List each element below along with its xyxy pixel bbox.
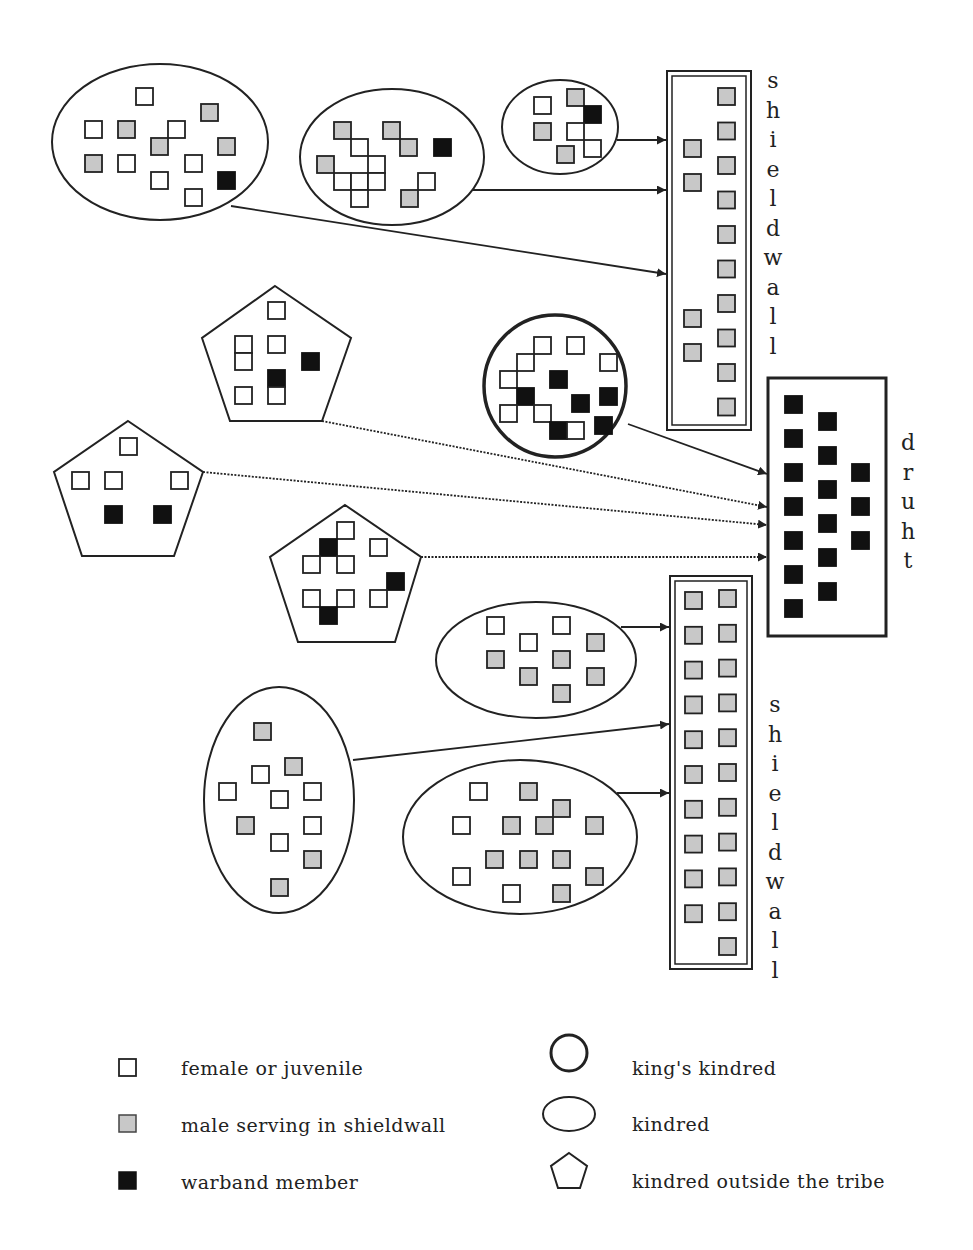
shieldwall-male-member: [719, 799, 736, 816]
female-juvenile-member: [304, 817, 321, 834]
female-juvenile-member: [85, 121, 102, 138]
kindred-6-members: [453, 783, 603, 902]
shieldwall-male-member: [684, 344, 701, 361]
female-juvenile-member: [120, 438, 137, 455]
warband-member: [785, 396, 802, 413]
warband-member: [572, 395, 589, 412]
shieldwall-male-member: [520, 851, 537, 868]
female-juvenile-member: [503, 885, 520, 902]
shieldwall-male-member: [718, 88, 735, 105]
shieldwall-male-member: [719, 625, 736, 642]
legend-kindred-label: kindred: [632, 1113, 710, 1135]
shieldwall-top-label-letter: a: [766, 275, 779, 300]
female-juvenile-member: [337, 556, 354, 573]
druht-label-letter: u: [901, 489, 915, 514]
female-juvenile-member: [268, 387, 285, 404]
shieldwall-male-member: [718, 364, 735, 381]
legend-female-label: female or juvenile: [181, 1057, 363, 1079]
arrow-kings-kindred-to-druht: [628, 424, 767, 474]
shieldwall-top-label-letter: i: [769, 127, 776, 152]
female-juvenile-member: [370, 539, 387, 556]
shieldwall-male-member: [685, 836, 702, 853]
shieldwall-male-member: [685, 696, 702, 713]
shieldwall-male-member: [718, 295, 735, 312]
shieldwall-male-member: [587, 668, 604, 685]
legend-female-swatch: [119, 1059, 136, 1076]
shieldwall-male-member: [201, 104, 218, 121]
shieldwall-male-member: [553, 685, 570, 702]
shieldwall-male-member: [557, 146, 574, 163]
warband-member: [785, 566, 802, 583]
female-juvenile-member: [235, 353, 252, 370]
shieldwall-male-member: [151, 138, 168, 155]
female-juvenile-member: [151, 172, 168, 189]
warband-member: [302, 353, 319, 370]
warband-member: [218, 172, 235, 189]
legend-male-swatch: [119, 1115, 136, 1132]
warband-member: [819, 549, 836, 566]
shieldwall-male-member: [400, 139, 417, 156]
warband-member: [268, 370, 285, 387]
female-juvenile-member: [252, 766, 269, 783]
warband-member: [785, 532, 802, 549]
shieldwall-top-label-letter: s: [767, 68, 778, 93]
shieldwall-male-member: [719, 868, 736, 885]
female-juvenile-member: [171, 472, 188, 489]
female-juvenile-member: [351, 190, 368, 207]
warband-member: [517, 388, 534, 405]
shieldwall-male-member: [304, 851, 321, 868]
shieldwall-male-member: [586, 868, 603, 885]
female-juvenile-member: [185, 189, 202, 206]
shieldwall-male-member: [237, 817, 254, 834]
shieldwall-bottom-label-letter: a: [768, 899, 781, 924]
shieldwall-male-member: [567, 89, 584, 106]
shieldwall-male-member: [285, 758, 302, 775]
shieldwall-male-member: [553, 851, 570, 868]
shieldwall-bottom-label: shieldwall: [766, 692, 785, 983]
female-juvenile-member: [268, 302, 285, 319]
female-juvenile-member: [534, 337, 551, 354]
warband-member: [320, 607, 337, 624]
female-juvenile-member: [334, 173, 351, 190]
female-juvenile-member: [567, 123, 584, 140]
warband-member: [819, 515, 836, 532]
shieldwall-male-member: [534, 123, 551, 140]
shieldwall-male-member: [684, 310, 701, 327]
shieldwall-top-label-letter: d: [766, 216, 780, 241]
outside-1-members: [235, 302, 319, 404]
kindred-4-members: [487, 617, 604, 702]
female-juvenile-member: [534, 97, 551, 114]
legend-warband-swatch: [119, 1172, 136, 1189]
kindred-1-members: [85, 88, 235, 206]
shieldwall-male-member: [553, 800, 570, 817]
female-juvenile-member: [303, 590, 320, 607]
druht-label-letter: h: [901, 519, 915, 544]
warband-member: [105, 506, 122, 523]
shieldwall-male-member: [685, 592, 702, 609]
shieldwall-male-member: [587, 634, 604, 651]
shieldwall-male-member: [520, 668, 537, 685]
female-juvenile-member: [235, 387, 252, 404]
shieldwall-male-member: [118, 121, 135, 138]
legend-kings-kindred-icon: [551, 1035, 587, 1071]
female-juvenile-member: [271, 791, 288, 808]
female-juvenile-member: [368, 173, 385, 190]
shieldwall-bottom-label-letter: l: [771, 958, 778, 983]
female-juvenile-member: [600, 354, 617, 371]
warband-member: [819, 583, 836, 600]
warband-member: [785, 430, 802, 447]
legend-male-label: male serving in shieldwall: [181, 1114, 446, 1136]
female-juvenile-member: [584, 140, 601, 157]
shieldwall-male-member: [685, 870, 702, 887]
shieldwall-male-member: [401, 190, 418, 207]
shieldwall-male-member: [685, 731, 702, 748]
shieldwall-male-member: [271, 879, 288, 896]
shieldwall-bottom-label-letter: l: [771, 928, 778, 953]
warband-member: [819, 413, 836, 430]
female-juvenile-member: [118, 155, 135, 172]
female-juvenile-member: [500, 405, 517, 422]
kinship-warband-diagram: shieldwalldruhtshieldwall female or juve…: [0, 0, 973, 1250]
female-juvenile-member: [370, 590, 387, 607]
warband-member: [550, 422, 567, 439]
shieldwall-male-member: [719, 834, 736, 851]
